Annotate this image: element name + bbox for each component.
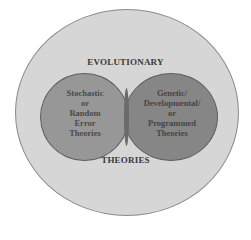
left-line-3: Random	[50, 108, 120, 118]
outer-label-top: EVOLUTIONARY	[0, 57, 251, 67]
right-line-5: Theories	[128, 128, 216, 138]
left-line-4: Error	[50, 118, 120, 128]
left-line-1: Stochastic	[50, 88, 120, 98]
right-line-3: or	[128, 108, 216, 118]
stochastic-theories-label: Stochastic or Random Error Theories	[50, 88, 120, 138]
right-line-1: Genetic/	[128, 88, 216, 98]
right-line-2: Developmental/	[128, 98, 216, 108]
left-line-2: or	[50, 98, 120, 108]
programmed-theories-label: Genetic/ Developmental/ or Programmed Th…	[128, 88, 216, 138]
right-line-4: Programmed	[128, 118, 216, 128]
outer-label-bottom: THEORIES	[0, 155, 251, 165]
left-line-5: Theories	[50, 128, 120, 138]
